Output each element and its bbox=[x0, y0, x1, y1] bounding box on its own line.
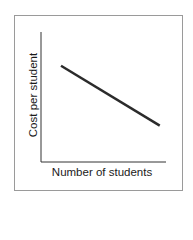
cost-line bbox=[61, 66, 160, 126]
y-axis-label: Cost per student bbox=[27, 53, 39, 137]
x-axis-label: Number of students bbox=[52, 166, 152, 178]
